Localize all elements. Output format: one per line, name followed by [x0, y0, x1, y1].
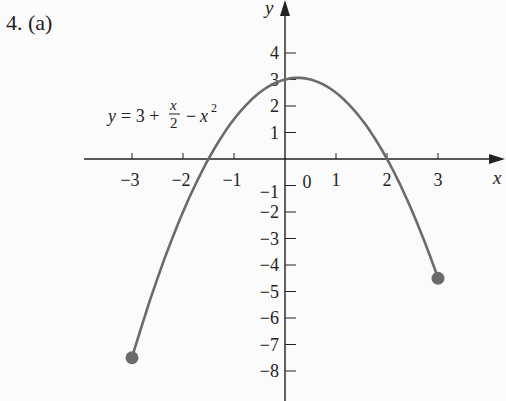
y-tick-label: −3 — [260, 229, 279, 249]
svg-text:= 3 +: = 3 + — [121, 106, 159, 126]
function-graph: 4. (a) −3−2−101234321−1−2−3−4−5−6−7−8 y … — [0, 0, 506, 401]
problem-label: 4. (a) — [6, 10, 52, 35]
y-axis-label: y — [263, 0, 274, 18]
endpoint-dot — [126, 351, 139, 364]
x-axis-label: x — [492, 167, 502, 188]
svg-text:2: 2 — [170, 115, 178, 131]
svg-text:x: x — [169, 97, 177, 113]
y-tick-label: −4 — [260, 255, 279, 275]
x-tick-label: 0 — [303, 172, 312, 192]
y-axis-arrow-icon — [280, 0, 290, 16]
equation-label: y = 3 + x 2 − x 2 — [106, 97, 217, 131]
x-tick-label: −1 — [222, 170, 241, 190]
y-tick-label: 4 — [270, 43, 279, 63]
y-tick-label: 1 — [270, 123, 279, 143]
x-tick-label: 3 — [434, 170, 443, 190]
svg-text:y: y — [106, 106, 116, 126]
x-tick-label: −2 — [171, 170, 190, 190]
y-tick-label: −1 — [260, 182, 279, 202]
y-tick-label: −2 — [260, 202, 279, 222]
x-tick-label: 1 — [332, 170, 341, 190]
y-tick-label: −8 — [260, 361, 279, 381]
x-axis-arrow-icon — [489, 154, 505, 164]
y-tick-label: −7 — [260, 335, 279, 355]
axes — [84, 0, 505, 401]
svg-text:−: − — [186, 106, 196, 126]
x-tick-label: −3 — [120, 170, 139, 190]
svg-text:x: x — [199, 106, 208, 126]
x-tick-label: 2 — [383, 170, 392, 190]
y-tick-label: −6 — [260, 308, 279, 328]
svg-text:2: 2 — [211, 101, 217, 115]
endpoint-dot — [432, 272, 445, 285]
y-tick-label: 3 — [270, 70, 279, 90]
y-tick-label: −5 — [260, 282, 279, 302]
y-tick-label: 2 — [270, 96, 279, 116]
tick-labels: −3−2−101234321−1−2−3−4−5−6−7−8 — [120, 43, 442, 381]
